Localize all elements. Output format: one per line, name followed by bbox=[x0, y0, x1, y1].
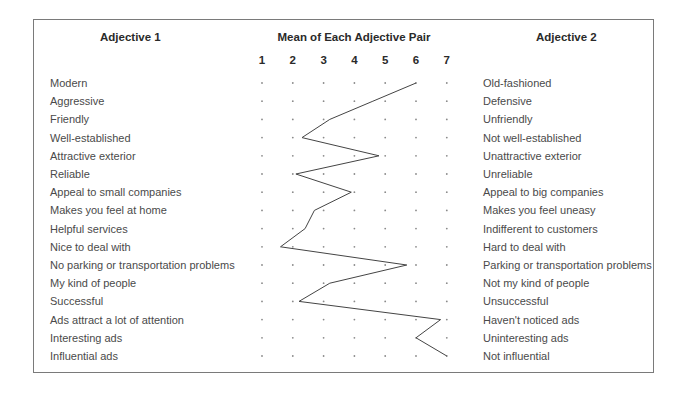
grid-dot bbox=[261, 191, 263, 193]
grid-dot bbox=[261, 173, 263, 175]
grid-dot bbox=[292, 191, 294, 193]
grid-dot bbox=[446, 210, 448, 212]
grid-dot bbox=[292, 264, 294, 266]
grid-dot bbox=[323, 264, 325, 266]
grid-dot bbox=[446, 246, 448, 248]
grid-dot bbox=[292, 282, 294, 284]
grid-dot bbox=[292, 119, 294, 121]
grid-dot bbox=[292, 319, 294, 321]
grid-dot bbox=[384, 119, 386, 121]
grid-dot bbox=[354, 301, 356, 303]
grid-dot bbox=[446, 191, 448, 193]
grid-dot bbox=[415, 228, 417, 230]
grid-dot bbox=[446, 173, 448, 175]
grid-dot bbox=[323, 155, 325, 157]
grid-dot bbox=[323, 173, 325, 175]
grid-dot bbox=[354, 137, 356, 139]
grid-dot bbox=[323, 210, 325, 212]
grid-dot bbox=[261, 246, 263, 248]
grid-dot bbox=[354, 355, 356, 357]
grid-dot bbox=[415, 246, 417, 248]
grid-dot bbox=[261, 228, 263, 230]
grid-dot bbox=[384, 228, 386, 230]
grid-dot bbox=[446, 82, 448, 84]
grid-dot bbox=[292, 137, 294, 139]
grid-dot bbox=[292, 228, 294, 230]
grid-dot bbox=[323, 337, 325, 339]
grid-dot bbox=[384, 264, 386, 266]
grid-dot bbox=[323, 82, 325, 84]
grid-dot bbox=[446, 119, 448, 121]
grid-dot bbox=[415, 210, 417, 212]
grid-dot bbox=[323, 137, 325, 139]
grid-dot bbox=[446, 319, 448, 321]
grid-dot bbox=[354, 337, 356, 339]
grid-dot bbox=[354, 282, 356, 284]
grid-dot bbox=[261, 210, 263, 212]
grid-dot bbox=[415, 155, 417, 157]
grid-dot bbox=[261, 137, 263, 139]
grid-dot bbox=[354, 191, 356, 193]
grid-dot bbox=[384, 355, 386, 357]
grid-dot bbox=[384, 137, 386, 139]
grid-dot bbox=[292, 100, 294, 102]
grid-dot bbox=[446, 264, 448, 266]
grid-dot bbox=[446, 100, 448, 102]
grid-dot bbox=[415, 191, 417, 193]
grid-dot bbox=[446, 282, 448, 284]
grid-dot bbox=[354, 155, 356, 157]
grid-dot bbox=[292, 301, 294, 303]
grid-dot bbox=[415, 282, 417, 284]
grid-dot bbox=[261, 282, 263, 284]
grid-dot bbox=[384, 210, 386, 212]
grid-dot bbox=[384, 319, 386, 321]
grid-dot bbox=[384, 191, 386, 193]
profile-plot bbox=[0, 0, 682, 393]
grid-dot bbox=[415, 301, 417, 303]
grid-dot bbox=[415, 100, 417, 102]
grid-dot bbox=[323, 119, 325, 121]
grid-dot bbox=[261, 82, 263, 84]
grid-dot bbox=[384, 246, 386, 248]
grid-dot bbox=[261, 119, 263, 121]
grid-dot bbox=[446, 155, 448, 157]
grid-dot bbox=[384, 337, 386, 339]
grid-dot bbox=[323, 301, 325, 303]
grid-dot bbox=[292, 210, 294, 212]
grid-dot bbox=[446, 137, 448, 139]
grid-dot bbox=[323, 191, 325, 193]
grid-dot bbox=[292, 173, 294, 175]
grid-dot bbox=[323, 100, 325, 102]
grid-dot bbox=[354, 210, 356, 212]
grid-dot bbox=[292, 82, 294, 84]
grid-dot bbox=[384, 173, 386, 175]
grid-dot bbox=[354, 228, 356, 230]
grid-dot bbox=[261, 301, 263, 303]
grid-dot bbox=[354, 119, 356, 121]
grid-dot bbox=[323, 228, 325, 230]
grid-dot bbox=[446, 337, 448, 339]
grid-dot bbox=[384, 100, 386, 102]
grid-dot bbox=[354, 173, 356, 175]
grid-dot bbox=[415, 137, 417, 139]
grid-dot bbox=[446, 301, 448, 303]
grid-dot bbox=[354, 264, 356, 266]
grid-dot bbox=[292, 246, 294, 248]
grid-dot bbox=[354, 82, 356, 84]
grid-dot bbox=[261, 155, 263, 157]
grid-dot bbox=[323, 246, 325, 248]
grid-dot bbox=[415, 264, 417, 266]
grid-dot bbox=[384, 301, 386, 303]
grid-dot bbox=[415, 173, 417, 175]
grid-dot bbox=[384, 282, 386, 284]
grid-dot bbox=[292, 155, 294, 157]
grid-dot bbox=[384, 155, 386, 157]
grid-dot bbox=[261, 337, 263, 339]
grid-dot bbox=[261, 355, 263, 357]
grid-dot bbox=[261, 264, 263, 266]
grid-dot bbox=[323, 282, 325, 284]
grid-dot bbox=[323, 355, 325, 357]
grid-dot bbox=[261, 100, 263, 102]
mean-profile-line bbox=[281, 83, 447, 356]
grid-dot bbox=[292, 355, 294, 357]
